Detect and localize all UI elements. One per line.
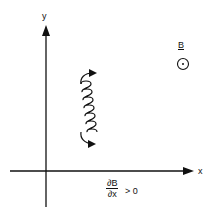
helix-trajectory-icon: [81, 73, 97, 144]
gradient-numerator: ∂B: [106, 178, 118, 189]
field-label: B: [178, 40, 184, 50]
x-axis-arrowhead-icon: [183, 167, 194, 175]
gradient-relation: > 0: [125, 186, 138, 196]
gradient-denominator: ∂x: [106, 189, 118, 199]
helix-top-arrowhead-icon: [89, 69, 97, 77]
y-axis-arrowhead-icon: [42, 25, 50, 36]
helix-bottom-arrowhead-icon: [88, 140, 96, 148]
x-axis-label: x: [198, 167, 203, 176]
field-dot-icon: [182, 63, 184, 65]
y-axis-label: y: [42, 12, 47, 21]
gradient-fraction: ∂B ∂x: [106, 178, 118, 199]
